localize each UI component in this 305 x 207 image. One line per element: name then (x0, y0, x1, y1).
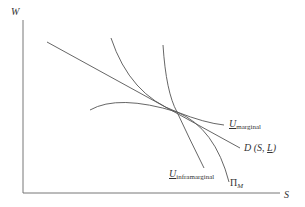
u-inframarginal-curve (163, 45, 204, 168)
u-marginal-label: Umarginal (229, 119, 261, 131)
demand-main: D (244, 142, 251, 153)
u-inframarginal-sub: inframarginal (176, 173, 214, 181)
diagram-canvas (0, 0, 305, 207)
u-marginal-sub: marginal (236, 123, 261, 131)
u-inframarginal-label: Uinframarginal (169, 169, 214, 181)
x-axis-label: S (284, 190, 289, 200)
y-axis-label: W (11, 7, 19, 17)
profit-label: ΠM (230, 178, 243, 190)
demand-args-pre: (S, (254, 142, 267, 153)
demand-args-post: ) (273, 142, 276, 153)
demand-label: D (S, L) (244, 143, 276, 153)
demand-line (47, 42, 240, 148)
economics-diagram: W S Umarginal D (S, L) Uinframarginal ΠM (0, 0, 305, 207)
profit-sub: M (237, 182, 243, 190)
u-marginal-curve (90, 102, 224, 125)
